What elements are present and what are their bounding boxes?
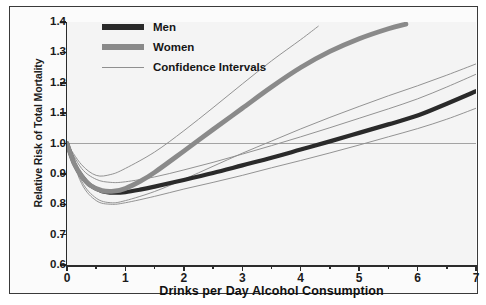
x-tick-mark-minor [388,265,390,269]
x-tick-mark-minor [154,265,156,269]
x-tick-label: 6 [403,271,433,285]
chart-frame: 1.41.31.21.11.00.90.80.70.6 Relative Ris… [9,6,478,294]
x-tick-label: 3 [227,271,257,285]
figure: 1.41.31.21.11.00.90.80.70.6 Relative Ris… [0,0,486,305]
y-tick-label: 0.6 [36,259,66,270]
x-tick-label: 0 [52,271,82,285]
y-axis-title: Relative Risk of Total Mortality [32,43,44,223]
legend-label-men: Men [153,21,176,33]
y-tick-label-wrap: 1.4 [10,16,66,28]
x-tick-label: 2 [169,271,199,285]
legend: Men Women Confidence Intervals [102,19,332,79]
y-tick-label-wrap: 0.7 [10,229,66,241]
legend-swatch-men-icon [102,24,144,30]
legend-swatch-women-icon [102,44,144,50]
series-line-men [67,91,476,193]
x-tick-mark-minor [212,265,214,269]
x-tick-mark-minor [329,265,331,269]
y-tick-label: 0.7 [36,229,66,240]
y-tick-label-wrap: 0.6 [10,259,66,271]
legend-item-women: Women [102,39,332,55]
x-tick-label: 1 [110,271,140,285]
x-axis-title: Drinks per Day Alcohol Consumption [67,284,476,298]
x-tick-mark-minor [271,265,273,269]
legend-label-women: Women [153,41,194,53]
x-tick-label: 4 [286,271,316,285]
confidence-interval-men-upper [67,74,476,182]
x-tick-label: 5 [344,271,374,285]
x-tick-mark-minor [446,265,448,269]
legend-item-men: Men [102,19,332,35]
legend-item-confidence-intervals: Confidence Intervals [102,59,332,75]
x-tick-label: 7 [461,271,486,285]
legend-label-ci: Confidence Intervals [153,61,266,73]
legend-swatch-ci-icon [102,67,144,68]
x-tick-mark-minor [95,265,97,269]
y-tick-label: 1.4 [36,16,66,27]
